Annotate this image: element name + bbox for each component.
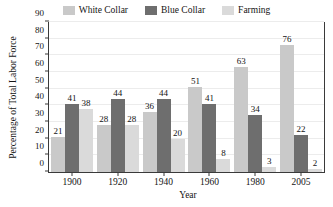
legend-item-white-collar: White Collar — [63, 5, 128, 15]
bar[interactable] — [188, 87, 202, 172]
bar-value-label: 51 — [191, 77, 200, 86]
legend-label-blue-collar: Blue Collar — [161, 5, 205, 15]
bar-value-label: 20 — [173, 129, 182, 138]
bar-slot: 28 — [125, 22, 139, 172]
y-tick-label: 60 — [35, 59, 49, 68]
bar-value-label: 22 — [297, 125, 306, 134]
bar[interactable] — [262, 167, 276, 172]
x-tick-mark — [117, 172, 118, 176]
bar-group: 514181960 — [186, 22, 232, 172]
bar[interactable] — [216, 159, 230, 172]
bar-value-label: 38 — [81, 99, 90, 108]
y-tick-label: 10 — [35, 142, 49, 151]
bar-slot: 44 — [157, 22, 171, 172]
bar-slot: 22 — [294, 22, 308, 172]
bar[interactable] — [125, 125, 139, 172]
y-tick-label: 90 — [35, 9, 49, 18]
bar-value-label: 8 — [221, 149, 226, 158]
x-tick-label: 1980 — [246, 177, 265, 187]
x-tick-mark — [209, 172, 210, 176]
bar[interactable] — [248, 115, 262, 172]
y-tick-label: 30 — [35, 109, 49, 118]
x-tick-label: 1940 — [154, 177, 173, 187]
bar[interactable] — [143, 112, 157, 172]
bar-slot: 28 — [97, 22, 111, 172]
bar[interactable] — [157, 99, 171, 172]
chart-legend: White Collar Blue Collar Farming — [0, 1, 333, 19]
bar-value-label: 41 — [205, 94, 214, 103]
y-axis-title: Percentage of Total Labor Force — [8, 23, 19, 173]
bar-group: 2141381900 — [49, 22, 95, 172]
bar-group: 633431980 — [232, 22, 278, 172]
legend-swatch-farming — [222, 6, 234, 15]
y-tick-label: 70 — [35, 42, 49, 51]
plot-area: 0102030405060708090 21413819002844281920… — [48, 22, 325, 173]
bar[interactable] — [280, 45, 294, 172]
bar-slot: 41 — [65, 22, 79, 172]
bar[interactable] — [234, 67, 248, 172]
bar-slot: 38 — [79, 22, 93, 172]
x-axis-title: Year — [48, 190, 328, 201]
bar[interactable] — [294, 135, 308, 172]
bar-group: 2844281920 — [95, 22, 141, 172]
bar-value-label: 28 — [99, 115, 108, 124]
bar-value-label: 28 — [127, 115, 136, 124]
x-tick-mark — [163, 172, 164, 176]
bar-value-label: 44 — [113, 89, 122, 98]
bar[interactable] — [171, 139, 185, 172]
legend-label-farming: Farming — [238, 5, 270, 15]
bar-value-label: 36 — [145, 102, 154, 111]
bar-slot: 21 — [51, 22, 65, 172]
bar[interactable] — [51, 137, 65, 172]
bar-slot: 63 — [234, 22, 248, 172]
y-tick-label: 80 — [35, 25, 49, 34]
x-tick-mark — [71, 172, 72, 176]
bar-slot: 36 — [143, 22, 157, 172]
bar-slot: 34 — [248, 22, 262, 172]
x-tick-mark — [255, 172, 256, 176]
bar-slot: 76 — [280, 22, 294, 172]
bar-value-label: 21 — [53, 127, 62, 136]
legend-item-farming: Farming — [222, 5, 270, 15]
bar[interactable] — [97, 125, 111, 172]
bar-value-label: 76 — [283, 35, 292, 44]
bar-slot: 20 — [171, 22, 185, 172]
bar[interactable] — [111, 99, 125, 172]
x-tick-label: 1900 — [62, 177, 81, 187]
legend-swatch-white-collar — [63, 6, 75, 15]
bar-value-label: 41 — [67, 94, 76, 103]
bar-chart: White Collar Blue Collar Farming Percent… — [0, 0, 333, 207]
x-tick-label: 1920 — [108, 177, 127, 187]
x-tick-mark — [301, 172, 302, 176]
bar[interactable] — [65, 104, 79, 172]
bar-group: 762222005 — [278, 22, 324, 172]
bar[interactable] — [308, 169, 322, 172]
y-tick-label: 20 — [35, 125, 49, 134]
y-tick-label: 40 — [35, 92, 49, 101]
y-tick-label: 0 — [40, 159, 50, 168]
bar-slot: 44 — [111, 22, 125, 172]
bar-slot: 2 — [308, 22, 322, 172]
bar-value-label: 34 — [251, 105, 260, 114]
legend-swatch-blue-collar — [145, 6, 157, 15]
bar-group: 3644201940 — [141, 22, 187, 172]
bar[interactable] — [79, 109, 93, 172]
bar-slot: 8 — [216, 22, 230, 172]
legend-item-blue-collar: Blue Collar — [145, 5, 205, 15]
y-tick-label: 50 — [35, 75, 49, 84]
bar-value-label: 63 — [237, 57, 246, 66]
x-tick-label: 2005 — [292, 177, 311, 187]
bar-value-label: 3 — [267, 157, 272, 166]
bar-value-label: 2 — [313, 159, 318, 168]
bar-slot: 41 — [202, 22, 216, 172]
bar-value-label: 44 — [159, 89, 168, 98]
bar[interactable] — [202, 104, 216, 172]
bar-slot: 3 — [262, 22, 276, 172]
bar-slot: 51 — [188, 22, 202, 172]
bar-groups: 2141381900284428192036442019405141819606… — [49, 22, 324, 172]
x-tick-label: 1960 — [200, 177, 219, 187]
legend-label-white-collar: White Collar — [79, 5, 128, 15]
